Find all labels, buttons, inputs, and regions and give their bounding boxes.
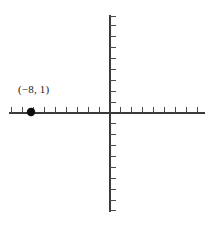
coordinate-plane-figure: (−8, 1)	[0, 0, 213, 225]
data-point-label: (−8, 1)	[18, 84, 49, 95]
coordinate-axes-svg	[0, 0, 213, 225]
x-axis-ticks-positive	[121, 107, 197, 113]
x-axis-ticks-negative	[12, 107, 99, 113]
y-axis-ticks-negative	[110, 124, 116, 211]
y-axis-ticks-positive	[110, 17, 116, 103]
data-point-marker	[27, 108, 35, 116]
